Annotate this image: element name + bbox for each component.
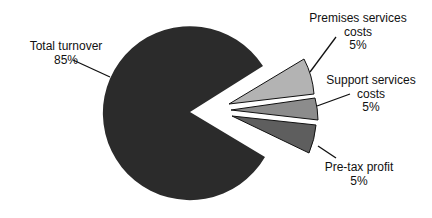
leader-line-support [317,94,350,106]
label-pretax-value: 5% [350,174,368,188]
leader-line-premises [310,37,336,72]
label-pre-tax-profit: Pre-tax profit 5% [325,160,394,188]
slice-total-turnover [103,26,265,200]
label-premises-value: 5% [349,38,367,52]
label-pretax-name: Pre-tax profit [325,160,394,174]
label-premises-name-line1: Premises services [309,11,406,25]
label-support-services-costs: Support services costs 5% [326,73,415,114]
label-total-turnover-name: Total turnover [30,39,103,53]
label-total-turnover: Total turnover 85% [30,39,103,67]
pie-chart: Total turnover 85% Premises services cos… [0,0,432,218]
label-support-value: 5% [362,100,380,114]
leader-line-total-turnover [73,60,110,77]
label-support-name-line1: Support services [326,73,415,87]
label-premises-services-costs: Premises services costs 5% [309,11,406,52]
label-premises-name-line2: costs [344,25,372,39]
label-total-turnover-value: 85% [54,53,78,67]
leader-line-pretax [318,146,336,158]
label-support-name-line2: costs [357,87,385,101]
